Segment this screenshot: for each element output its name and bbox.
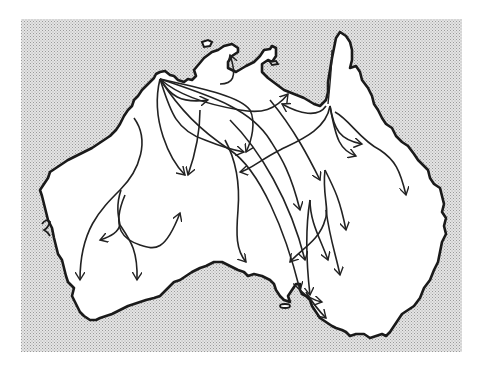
map-svg [0, 0, 484, 366]
island-outline [202, 40, 212, 47]
island-outline [280, 304, 290, 308]
island-outline [270, 61, 278, 65]
australia-dispersal-map [0, 0, 484, 366]
